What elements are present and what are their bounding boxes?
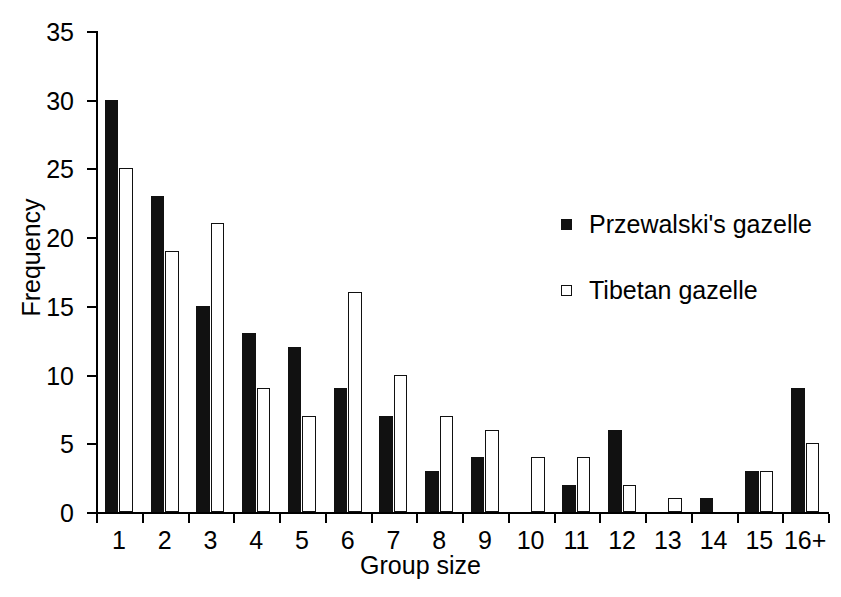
bar: [531, 457, 544, 512]
x-tick: [645, 514, 647, 523]
y-tick: 10: [87, 375, 96, 377]
bar: [379, 416, 392, 512]
x-tick-label: 5: [295, 528, 309, 553]
bar: [471, 457, 484, 512]
bar: [700, 498, 713, 512]
x-tick-label: 12: [608, 528, 636, 553]
bar: [623, 485, 636, 512]
x-tick: [508, 514, 510, 523]
x-tick: [371, 514, 373, 523]
bar: [105, 100, 118, 512]
x-tick: [691, 514, 693, 523]
legend-item: Przewalski's gazelle: [561, 208, 812, 240]
bar: [440, 416, 453, 512]
y-tick: 20: [87, 237, 96, 239]
bar: [394, 375, 407, 512]
x-tick-label: 16+: [784, 528, 826, 553]
bar: [257, 388, 270, 512]
x-tick: [554, 514, 556, 523]
bar: [211, 223, 224, 512]
x-tick: [233, 514, 235, 523]
legend-label: Przewalski's gazelle: [589, 212, 812, 237]
bar: [196, 306, 209, 512]
y-tick-label: 0: [60, 501, 74, 526]
y-tick: 0: [87, 512, 96, 514]
x-tick-label: 8: [432, 528, 446, 553]
bar: [562, 485, 575, 512]
bar: [302, 416, 315, 512]
bar: [745, 471, 758, 512]
legend-item: Tibetan gazelle: [561, 274, 812, 306]
bar: [425, 471, 438, 512]
x-tick: [188, 514, 190, 523]
y-tick-label: 20: [46, 226, 74, 251]
x-tick: [416, 514, 418, 523]
bar: [577, 457, 590, 512]
x-tick: [462, 514, 464, 523]
x-tick: [96, 514, 98, 523]
bar: [242, 333, 255, 512]
x-tick-label: 6: [341, 528, 355, 553]
bar-chart-figure: Frequency Group size 05101520253035 1234…: [0, 0, 841, 597]
x-tick: [142, 514, 144, 523]
y-tick-label: 5: [60, 432, 74, 457]
x-tick: [325, 514, 327, 523]
x-tick-label: 10: [517, 528, 545, 553]
x-tick: [599, 514, 601, 523]
bar: [608, 430, 621, 512]
x-tick-label: 1: [112, 528, 126, 553]
y-tick-label: 10: [46, 363, 74, 388]
bar: [288, 347, 301, 512]
y-tick-label: 30: [46, 88, 74, 113]
x-tick: [279, 514, 281, 523]
y-tick: 35: [87, 31, 96, 33]
y-axis-title: Frequency: [17, 158, 46, 358]
legend-label: Tibetan gazelle: [589, 278, 758, 303]
bar: [806, 443, 819, 512]
bar: [348, 292, 361, 512]
y-axis-line: [96, 31, 98, 513]
x-tick: [737, 514, 739, 523]
x-tick-label: 9: [478, 528, 492, 553]
bar: [119, 168, 132, 512]
bar: [334, 388, 347, 512]
x-tick: [782, 514, 784, 523]
x-tick-label: 11: [563, 528, 589, 553]
x-tick-label: 3: [203, 528, 217, 553]
y-tick: 30: [87, 100, 96, 102]
y-tick-label: 25: [46, 157, 74, 182]
y-tick-label: 35: [46, 20, 74, 45]
x-tick-label: 2: [158, 528, 172, 553]
bar: [760, 471, 773, 512]
open-square-icon: [561, 285, 572, 296]
x-tick-label: 7: [386, 528, 400, 553]
y-tick-label: 15: [46, 294, 74, 319]
x-tick-label: 4: [249, 528, 263, 553]
bar: [791, 388, 804, 512]
bar: [668, 498, 681, 512]
bar: [485, 430, 498, 512]
bar: [165, 251, 178, 512]
x-tick-label: 14: [700, 528, 728, 553]
y-tick: 15: [87, 306, 96, 308]
legend: Przewalski's gazelleTibetan gazelle: [561, 208, 812, 340]
x-tick: [828, 514, 830, 523]
y-tick: 5: [87, 443, 96, 445]
x-tick-label: 15: [745, 528, 773, 553]
y-tick: 25: [87, 168, 96, 170]
filled-square-icon: [561, 219, 572, 230]
x-axis-title: Group size: [0, 551, 841, 580]
x-tick-label: 13: [654, 528, 682, 553]
bar: [151, 196, 164, 512]
